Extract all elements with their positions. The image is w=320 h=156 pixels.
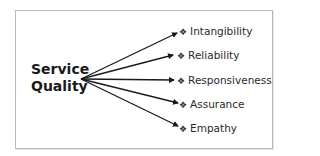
arrow-assurance — [81, 79, 178, 103]
title-line-1: Service — [31, 61, 89, 78]
item-reliability: ❖Reliability — [177, 49, 239, 62]
title-line-2: Quality — [31, 78, 89, 95]
diamond-bullet-icon: ❖ — [179, 100, 187, 110]
arrow-empathy — [81, 79, 178, 126]
item-label: Assurance — [190, 98, 244, 110]
diagram-title: Service Quality — [31, 61, 89, 95]
item-intangibility: ❖Intangibility — [179, 25, 252, 38]
arrow-reliability — [81, 55, 173, 79]
item-label: Reliability — [188, 49, 239, 61]
diamond-bullet-icon: ❖ — [177, 76, 185, 86]
item-label: Responsiveness — [188, 74, 272, 86]
item-empathy: ❖Empathy — [179, 122, 237, 135]
arrow-responsiveness — [81, 79, 174, 80]
diamond-bullet-icon: ❖ — [177, 51, 185, 61]
item-label: Intangibility — [190, 25, 252, 37]
item-label: Empathy — [190, 122, 237, 134]
diamond-bullet-icon: ❖ — [179, 27, 187, 37]
arrow-intangibility — [81, 33, 177, 79]
item-assurance: ❖Assurance — [179, 98, 245, 111]
item-responsiveness: ❖Responsiveness — [177, 74, 272, 87]
diamond-bullet-icon: ❖ — [179, 124, 187, 134]
